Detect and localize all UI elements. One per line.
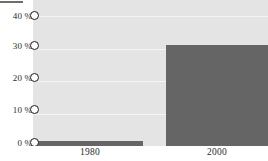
y-tick-marker-30 (30, 41, 39, 50)
bar-2000[interactable] (166, 45, 268, 146)
y-tick-40: 40 % (0, 10, 33, 22)
x-tick-label-1980: 1980 (60, 148, 120, 158)
y-tick-marker-10 (30, 105, 39, 114)
x-tick-label-2000: 2000 (187, 148, 247, 158)
y-tick-20: 20 % (0, 72, 33, 84)
y-tick-10: 10 % (0, 104, 33, 116)
bar-chart: 40 % 30 % 20 % 10 % 0 % 1980 2000 (0, 0, 268, 161)
x-axis-strip: 1980 2000 (0, 146, 268, 161)
plot-area (33, 0, 268, 146)
y-tick-30: 30 % (0, 40, 33, 52)
y-tick-marker-40 (30, 11, 39, 20)
gridline-40 (33, 16, 268, 17)
top-edge-artifact (0, 1, 23, 3)
y-tick-marker-20 (30, 73, 39, 82)
